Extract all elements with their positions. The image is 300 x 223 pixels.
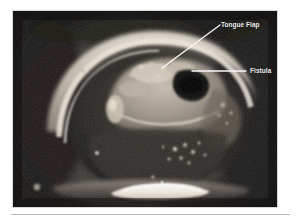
film-grain (13, 11, 277, 207)
tongue-flap-label: Tongue Flap (221, 22, 260, 28)
figure-root: Tongue Flap Fistula (0, 0, 300, 223)
fistula-label: Fistula (250, 68, 271, 74)
clinical-photograph (13, 11, 277, 207)
bottom-separator-rule (11, 214, 290, 215)
photograph-canvas (13, 11, 277, 207)
